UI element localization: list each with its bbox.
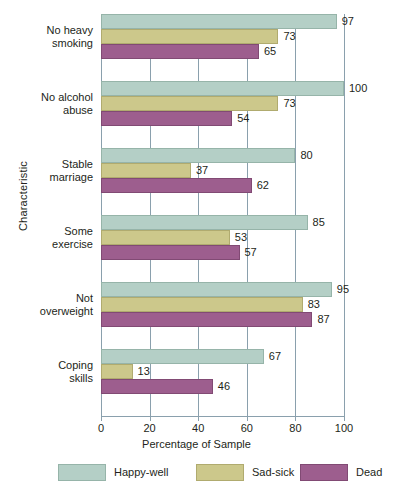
category-label-line: Stable [0, 158, 93, 171]
gridline-100 [344, 14, 345, 417]
legend-item-sad-sick[interactable]: Sad-sick [196, 462, 294, 482]
category-label-line: Coping [0, 359, 93, 372]
x-tick-label-80: 80 [275, 422, 315, 434]
x-tick-label-0: 0 [81, 422, 121, 434]
category-label-line: exercise [0, 238, 93, 251]
bar-happy-well [101, 81, 344, 96]
bar-dead [101, 245, 240, 260]
tick-60 [247, 417, 248, 421]
legend-label: Happy-well [114, 466, 168, 478]
bar-sad-sick [101, 163, 191, 178]
bar-value-label: 54 [237, 111, 249, 126]
bar-value-label: 100 [349, 81, 367, 96]
category-label-line: Not [0, 292, 93, 305]
tick-100 [344, 417, 345, 421]
bar-value-label: 95 [337, 282, 349, 297]
bar-happy-well [101, 148, 295, 163]
bar-happy-well [101, 349, 264, 364]
chart-figure: Characteristic 9773651007354803762855357… [0, 0, 393, 503]
category-label-no-alcohol-abuse: No alcoholabuse [0, 91, 93, 116]
bar-group: 958387 [101, 282, 344, 327]
bar-dead [101, 178, 252, 193]
x-axis-title: Percentage of Sample [0, 438, 393, 450]
bar-group: 1007354 [101, 81, 344, 126]
tick-0 [101, 417, 102, 421]
bar-value-label: 73 [283, 29, 295, 44]
bar-dead [101, 379, 213, 394]
bar-happy-well [101, 215, 308, 230]
plot-area: 9773651007354803762855357958387671346 [101, 14, 344, 417]
tick-40 [198, 417, 199, 421]
legend-swatch-icon [300, 464, 348, 481]
bar-value-label: 83 [308, 297, 320, 312]
category-label-some-exercise: Someexercise [0, 225, 93, 250]
category-label-line: No alcohol [0, 91, 93, 104]
tick-80 [295, 417, 296, 421]
bar-group: 671346 [101, 349, 344, 394]
x-tick-label-100: 100 [324, 422, 364, 434]
category-label-line: abuse [0, 104, 93, 117]
category-label-stable-marriage: Stablemarriage [0, 158, 93, 183]
bar-dead [101, 44, 259, 59]
category-label-line: smoking [0, 37, 93, 50]
x-tick-label-20: 20 [130, 422, 170, 434]
bar-sad-sick [101, 230, 230, 245]
bar-value-label: 65 [264, 44, 276, 59]
bar-happy-well [101, 14, 337, 29]
bar-group: 977365 [101, 14, 344, 59]
bar-value-label: 13 [138, 364, 150, 379]
bar-dead [101, 111, 232, 126]
legend-item-happy-well[interactable]: Happy-well [58, 462, 168, 482]
chart-legend: Happy-wellSad-sickDead [0, 462, 393, 486]
category-label-not-overweight: Notoverweight [0, 292, 93, 317]
bar-sad-sick [101, 297, 303, 312]
category-label-no-heavy-smoking: No heavysmoking [0, 24, 93, 49]
tick-20 [150, 417, 151, 421]
legend-label: Sad-sick [252, 466, 294, 478]
bar-value-label: 87 [317, 312, 329, 327]
bar-sad-sick [101, 364, 133, 379]
bar-sad-sick [101, 29, 278, 44]
legend-item-dead[interactable]: Dead [300, 462, 382, 482]
category-label-coping-skills: Copingskills [0, 359, 93, 384]
bar-sad-sick [101, 96, 278, 111]
x-axis-line [101, 416, 345, 417]
category-label-line: marriage [0, 171, 93, 184]
bar-value-label: 53 [235, 230, 247, 245]
bar-value-label: 46 [218, 379, 230, 394]
x-tick-label-40: 40 [178, 422, 218, 434]
bar-dead [101, 312, 312, 327]
x-tick-label-60: 60 [227, 422, 267, 434]
bar-value-label: 37 [196, 163, 208, 178]
bar-value-label: 62 [257, 178, 269, 193]
category-label-line: skills [0, 372, 93, 385]
category-label-line: Some [0, 225, 93, 238]
bar-value-label: 85 [313, 215, 325, 230]
bar-happy-well [101, 282, 332, 297]
category-label-line: No heavy [0, 24, 93, 37]
legend-swatch-icon [196, 464, 244, 481]
legend-label: Dead [356, 466, 382, 478]
bar-value-label: 80 [300, 148, 312, 163]
bar-value-label: 67 [269, 349, 281, 364]
bar-value-label: 97 [342, 14, 354, 29]
bar-group: 803762 [101, 148, 344, 193]
bar-group: 855357 [101, 215, 344, 260]
category-label-line: overweight [0, 305, 93, 318]
legend-swatch-icon [58, 464, 106, 481]
bar-value-label: 73 [283, 96, 295, 111]
bar-value-label: 57 [245, 245, 257, 260]
